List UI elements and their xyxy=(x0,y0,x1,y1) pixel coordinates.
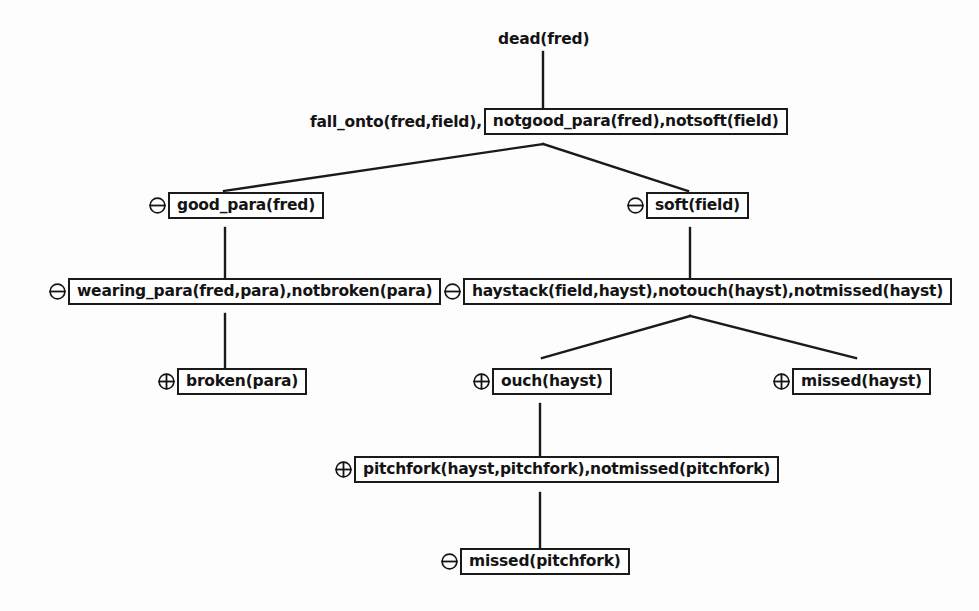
node-label-missed-pitchfork: missed(pitchfork) xyxy=(460,548,630,575)
circled-minus-icon xyxy=(440,552,459,571)
node-missed-hayst[interactable]: missed(hayst) xyxy=(772,368,931,395)
node-label-soft-field: soft(field) xyxy=(646,192,749,219)
circled-plus-icon xyxy=(772,372,791,391)
edge-goal-to-good_para xyxy=(224,144,543,191)
circled-minus-icon xyxy=(626,196,645,215)
node-soft-field[interactable]: soft(field) xyxy=(626,192,749,219)
circled-plus-icon xyxy=(334,460,353,479)
node-label-good-para: good_para(fred) xyxy=(168,192,324,219)
node-root[interactable]: dead(fred) xyxy=(498,30,591,49)
node-wearing-para[interactable]: wearing_para(fred,para),notbroken(para) xyxy=(48,278,441,305)
node-label-missed-hayst: missed(hayst) xyxy=(792,368,931,395)
node-good-para[interactable]: good_para(fred) xyxy=(148,192,324,219)
node-label-haystack: haystack(field,hayst),notouch(hayst),not… xyxy=(463,278,952,305)
node-label-ouch-hayst: ouch(hayst) xyxy=(492,368,612,395)
node-pitchfork[interactable]: pitchfork(hayst,pitchfork),notmissed(pit… xyxy=(334,456,779,483)
circled-plus-icon xyxy=(472,372,491,391)
circled-plus-icon xyxy=(157,372,176,391)
node-label-pitchfork: pitchfork(hayst,pitchfork),notmissed(pit… xyxy=(354,456,779,483)
node-missed-pitchfork[interactable]: missed(pitchfork) xyxy=(440,548,630,575)
circled-minus-icon xyxy=(148,196,167,215)
proof-tree-diagram: dead(fred) fall_onto(fred,field), notgoo… xyxy=(0,0,979,611)
edge-haystack-to-ouch_hayst xyxy=(542,316,690,358)
node-label-wearing-para: wearing_para(fred,para),notbroken(para) xyxy=(68,278,441,305)
edge-layer xyxy=(0,0,979,611)
node-prefix-fall-onto: fall_onto(fred,field), xyxy=(310,114,484,130)
circled-minus-icon xyxy=(443,282,462,301)
node-ouch-hayst[interactable]: ouch(hayst) xyxy=(472,368,612,395)
circled-minus-icon xyxy=(48,282,67,301)
edge-haystack-to-missed_hayst xyxy=(690,316,856,358)
node-haystack[interactable]: haystack(field,hayst),notouch(hayst),not… xyxy=(443,278,952,305)
node-label-dead-fred: dead(fred) xyxy=(498,31,591,47)
node-label-notgood-para: notgood_para(fred),notsoft(field) xyxy=(484,108,788,135)
node-label-broken-para: broken(para) xyxy=(177,368,307,395)
edge-goal-to-soft_field xyxy=(543,144,688,191)
node-broken-para[interactable]: broken(para) xyxy=(157,368,307,395)
node-goal-clause[interactable]: fall_onto(fred,field), notgood_para(fred… xyxy=(310,108,788,135)
